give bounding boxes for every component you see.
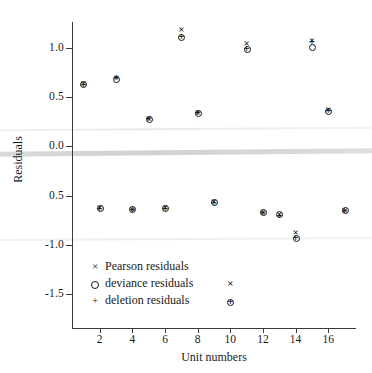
x-tick-label: 8 xyxy=(186,334,210,346)
data-point-deviance-unit-17 xyxy=(339,205,350,216)
y-tick-mark xyxy=(66,294,72,295)
data-point-pearson-unit-8 xyxy=(192,107,203,118)
data-point-deviance-unit-14 xyxy=(290,232,301,243)
data-point-deletion-unit-16 xyxy=(323,105,334,116)
x-tick-label: 16 xyxy=(316,334,340,346)
data-point-deviance-unit-7 xyxy=(176,32,187,43)
data-point-deletion-unit-13 xyxy=(274,210,285,221)
data-point-pearson-unit-6 xyxy=(160,202,171,213)
data-point-pearson-unit-10 xyxy=(225,278,236,289)
data-point-pearson-unit-15 xyxy=(306,35,317,46)
y-tick-mark xyxy=(66,196,72,197)
y-tick-label: 1.0 xyxy=(24,42,64,54)
x-tick-label: 12 xyxy=(251,334,275,346)
data-point-deviance-unit-13 xyxy=(274,209,285,220)
x-axis-spine xyxy=(72,328,356,329)
data-point-deviance-unit-3 xyxy=(111,73,122,84)
data-point-pearson-unit-3 xyxy=(111,72,122,83)
y-tick-mark xyxy=(66,48,72,49)
x-tick-label: 6 xyxy=(153,334,177,346)
legend-label: deletion residuals xyxy=(102,293,189,308)
y-tick-label: 0.5 xyxy=(24,91,64,103)
data-point-deletion-unit-12 xyxy=(257,207,268,218)
data-point-pearson-unit-1 xyxy=(78,78,89,89)
data-point-deletion-unit-8 xyxy=(192,107,203,118)
legend-marker-icon: + xyxy=(88,294,102,306)
data-point-deletion-unit-17 xyxy=(339,205,350,216)
y-tick-label: -1.5 xyxy=(24,288,64,300)
data-point-deviance-unit-8 xyxy=(192,107,203,118)
y-tick-mark xyxy=(66,97,72,98)
data-point-deletion-unit-2 xyxy=(94,203,105,214)
data-point-deviance-unit-6 xyxy=(160,203,171,214)
data-point-pearson-unit-4 xyxy=(127,204,138,215)
data-point-deviance-unit-12 xyxy=(257,207,268,218)
data-point-deletion-unit-4 xyxy=(127,204,138,215)
y-axis-spine xyxy=(72,22,73,328)
scan-artifact-line-upper xyxy=(0,127,372,131)
data-point-deviance-unit-15 xyxy=(306,42,317,53)
data-point-deviance-unit-5 xyxy=(143,113,154,124)
data-point-pearson-unit-9 xyxy=(209,196,220,207)
data-point-pearson-unit-16 xyxy=(323,104,334,115)
legend-marker-icon xyxy=(88,277,102,289)
data-point-deletion-unit-15 xyxy=(306,36,317,47)
data-point-deviance-unit-16 xyxy=(323,105,334,116)
data-point-deletion-unit-1 xyxy=(78,79,89,90)
data-point-deviance-unit-9 xyxy=(209,197,220,208)
data-point-pearson-unit-13 xyxy=(274,209,285,220)
legend-label: Pearson residuals xyxy=(102,259,189,274)
data-point-deletion-unit-5 xyxy=(143,113,154,124)
data-point-pearson-unit-7 xyxy=(176,24,187,35)
residuals-scatter-figure: 1.00.50.00.5-1.0-1.5 246810121416 Residu… xyxy=(0,0,372,373)
legend-label: deviance residuals xyxy=(102,276,193,291)
data-point-pearson-unit-17 xyxy=(339,205,350,216)
legend-marker-icon: × xyxy=(88,260,102,272)
data-point-deviance-unit-11 xyxy=(241,43,252,54)
data-point-deviance-unit-2 xyxy=(94,203,105,214)
data-point-deletion-unit-14 xyxy=(290,232,301,243)
data-point-deletion-unit-6 xyxy=(160,203,171,214)
x-tick-label: 10 xyxy=(218,334,242,346)
legend-item-deviance: deviance residuals xyxy=(88,273,193,290)
y-tick-label: 0.0 xyxy=(24,140,64,152)
data-point-pearson-unit-5 xyxy=(143,113,154,124)
data-point-pearson-unit-14 xyxy=(290,227,301,238)
legend: ×Pearson residualsdeviance residuals+del… xyxy=(88,256,193,307)
data-point-deviance-unit-1 xyxy=(78,79,89,90)
data-point-pearson-unit-12 xyxy=(257,207,268,218)
y-tick-label: -1.0 xyxy=(24,239,64,251)
data-point-deletion-unit-11 xyxy=(241,43,252,54)
legend-item-deletion: +deletion residuals xyxy=(88,290,193,307)
y-axis-title: Residuals xyxy=(11,115,26,205)
x-tick-label: 2 xyxy=(88,334,112,346)
x-tick-label: 4 xyxy=(120,334,144,346)
y-tick-mark xyxy=(66,146,72,147)
legend-item-pearson: ×Pearson residuals xyxy=(88,256,193,273)
data-point-deviance-unit-10 xyxy=(225,296,236,307)
y-tick-mark xyxy=(66,245,72,246)
data-point-deletion-unit-10 xyxy=(225,296,236,307)
data-point-deletion-unit-7 xyxy=(176,31,187,42)
data-point-pearson-unit-2 xyxy=(94,202,105,213)
x-tick-label: 14 xyxy=(284,334,308,346)
y-tick-label: 0.5 xyxy=(24,190,64,202)
data-point-pearson-unit-11 xyxy=(241,38,252,49)
data-point-deletion-unit-3 xyxy=(111,72,122,83)
data-point-deviance-unit-4 xyxy=(127,204,138,215)
data-point-deletion-unit-9 xyxy=(209,197,220,208)
x-axis-title: Unit numbers xyxy=(72,350,356,365)
